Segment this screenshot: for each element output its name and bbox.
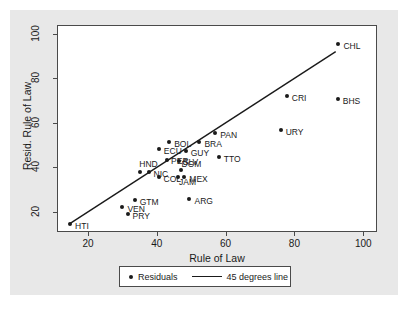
plot-canvas bbox=[57, 25, 377, 232]
data-point-label: PAN bbox=[220, 130, 237, 140]
x-tick-label: 60 bbox=[211, 238, 241, 249]
x-tick-label: 100 bbox=[348, 238, 378, 249]
legend-entry-residuals: Residuals bbox=[120, 272, 178, 282]
data-point bbox=[279, 128, 283, 132]
x-tick-label: 80 bbox=[279, 238, 309, 249]
data-point bbox=[133, 198, 137, 202]
y-tick-mark bbox=[53, 123, 57, 124]
y-tick-mark bbox=[53, 212, 57, 213]
data-point-label: ARG bbox=[194, 196, 212, 206]
data-point bbox=[336, 97, 340, 101]
scatter-plot-figure: 20406080100 20406080100 HTIPRYVENGTMARGC… bbox=[0, 0, 408, 312]
chart-legend: Residuals 45 degrees line bbox=[119, 266, 291, 287]
y-tick-mark bbox=[53, 167, 57, 168]
x-tick-mark bbox=[363, 232, 364, 236]
data-point-label: MEX bbox=[189, 174, 207, 184]
y-tick-label: 100 bbox=[30, 18, 41, 48]
residuals-marker-icon bbox=[129, 275, 133, 279]
data-point bbox=[184, 149, 188, 153]
data-point bbox=[217, 155, 221, 159]
legend-label-residuals: Residuals bbox=[138, 272, 178, 282]
line-marker-icon bbox=[192, 276, 222, 277]
legend-entry-reference-line: 45 degrees line bbox=[178, 272, 289, 282]
data-point-label: URY bbox=[286, 127, 304, 137]
data-point-label: BHS bbox=[343, 96, 360, 106]
data-point-label: BRA bbox=[204, 139, 221, 149]
data-point bbox=[157, 147, 161, 151]
x-tick-label: 40 bbox=[142, 238, 172, 249]
data-point-label: PER bbox=[171, 156, 188, 166]
x-tick-mark bbox=[157, 232, 158, 236]
data-point-label: TTO bbox=[224, 154, 241, 164]
x-tick-mark bbox=[226, 232, 227, 236]
data-point bbox=[182, 175, 186, 179]
data-point-label: CRI bbox=[292, 93, 307, 103]
x-tick-mark bbox=[88, 232, 89, 236]
data-point-label: HTI bbox=[75, 221, 89, 231]
x-axis-title: Rule of Law bbox=[57, 252, 377, 264]
legend-label-reference-line: 45 degrees line bbox=[227, 272, 289, 282]
data-point-label: GTM bbox=[140, 197, 159, 207]
x-tick-label: 20 bbox=[73, 238, 103, 249]
y-tick-label: 20 bbox=[30, 196, 41, 226]
data-point-label: BOL bbox=[174, 139, 191, 149]
data-point-label: HND bbox=[139, 159, 157, 169]
data-point-label: NIC bbox=[154, 169, 169, 179]
data-point bbox=[147, 170, 151, 174]
y-tick-mark bbox=[53, 78, 57, 79]
y-axis-title: Resid. Rule of Law bbox=[21, 66, 33, 186]
data-point-label: CHL bbox=[343, 41, 360, 51]
x-tick-mark bbox=[294, 232, 295, 236]
y-tick-mark bbox=[53, 34, 57, 35]
data-point bbox=[165, 158, 169, 162]
